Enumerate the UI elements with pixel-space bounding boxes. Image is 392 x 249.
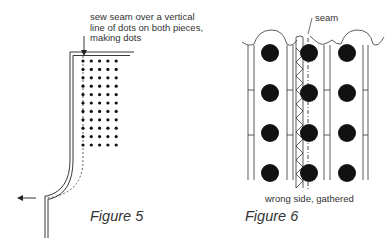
figure6-dot-grid bbox=[261, 44, 356, 182]
figure5-annotation: sew seam over a vertical line of dots on… bbox=[90, 12, 203, 44]
figure6-bottom-label: wrong side, gathered bbox=[265, 194, 354, 205]
annotation-line-1: sew seam over a vertical bbox=[90, 12, 203, 23]
figure5-caption: Figure 5 bbox=[90, 208, 143, 224]
figure6-caption: Figure 6 bbox=[245, 208, 298, 224]
figure6-drawing bbox=[242, 18, 384, 190]
figure5-dot-grid bbox=[81, 59, 117, 146]
annotation-line-3: making dots bbox=[90, 33, 203, 44]
seam-label: seam bbox=[315, 13, 338, 24]
